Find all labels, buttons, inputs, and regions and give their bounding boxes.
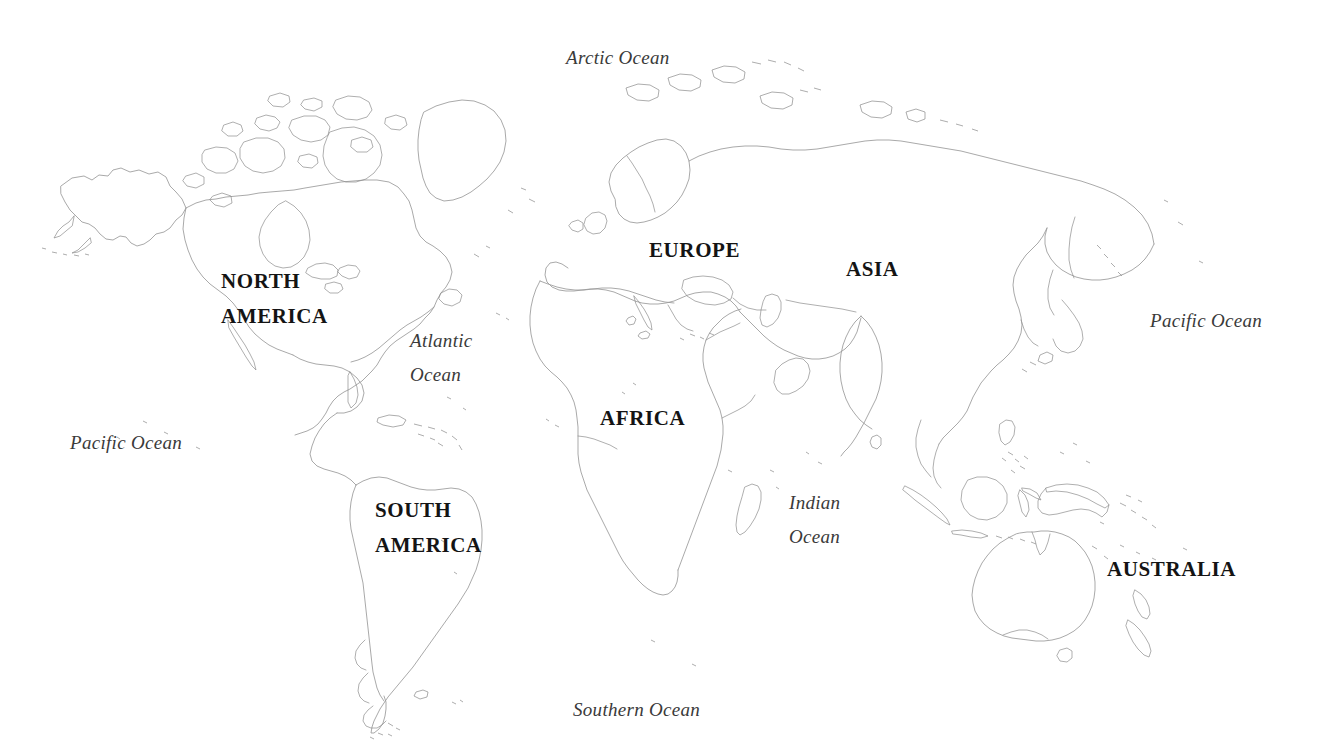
north-america-landmass	[42, 93, 506, 485]
africa-landmass	[530, 281, 779, 595]
europe-landmass	[545, 139, 781, 340]
coastline-canvas	[0, 0, 1318, 756]
australia-landmass	[972, 522, 1187, 662]
asia-landmass	[626, 60, 1154, 488]
indonesia-archipelago	[903, 420, 1156, 544]
world-map: NORTH AMERICA SOUTH AMERICA EUROPE ASIA …	[0, 0, 1318, 756]
south-america-landmass	[350, 477, 482, 739]
